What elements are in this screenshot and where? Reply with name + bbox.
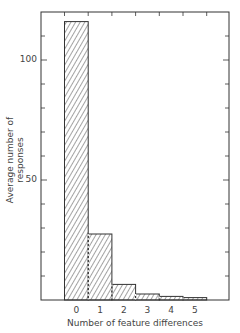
y-tick-label-100: 100 — [7, 54, 37, 64]
bar-0 — [65, 22, 89, 300]
bar-4 — [159, 296, 183, 300]
bar-3 — [136, 294, 160, 300]
x-tick-label-5: 5 — [185, 305, 205, 315]
x-tick-label-3: 3 — [137, 305, 157, 315]
bar-1 — [88, 234, 112, 300]
x-tick-label-2: 2 — [114, 305, 134, 315]
bars — [65, 22, 207, 300]
y-axis-label: Average number of responses — [5, 100, 25, 220]
bar-2 — [112, 284, 136, 300]
x-axis-label: Number of feature differences — [41, 318, 229, 328]
x-tick-label-0: 0 — [66, 305, 86, 315]
bar-chart — [0, 0, 240, 333]
x-tick-label-1: 1 — [90, 305, 110, 315]
x-tick-label-4: 4 — [161, 305, 181, 315]
